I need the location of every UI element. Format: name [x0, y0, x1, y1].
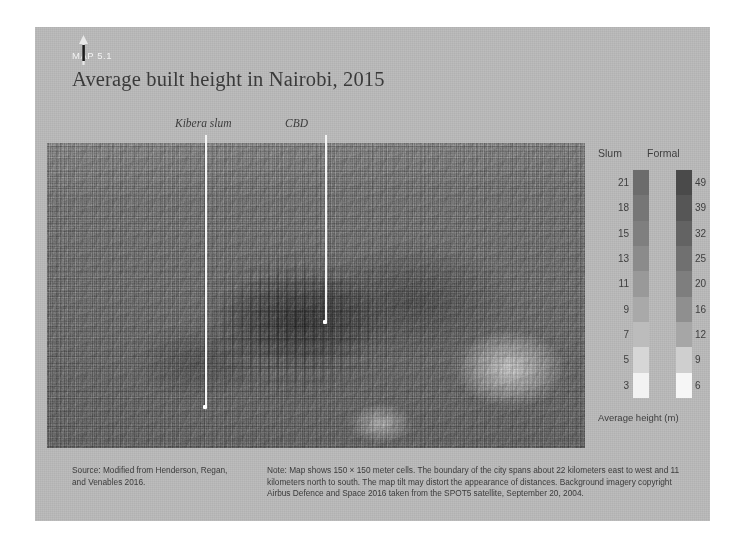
legend-swatch-slum-2: [633, 221, 649, 246]
legend-swatch-formal-7: [676, 347, 692, 372]
map-number-label: MAP 5.1: [72, 50, 632, 62]
legend-tick-slum-7: 5: [601, 347, 629, 372]
leader-line-cbd: [325, 135, 327, 322]
callout-label-kibera-slum: Kibera slum: [175, 117, 232, 129]
legend-tick-slum-1: 18: [601, 195, 629, 220]
legend-tick-formal-6: 12: [695, 322, 723, 347]
legend-axis-caption: Average height (m): [598, 412, 708, 423]
legend-tick-slum-8: 3: [601, 373, 629, 398]
legend-headers: Slum Formal: [598, 147, 708, 163]
leader-dot-cbd: [323, 320, 327, 324]
map-texture-grain: [47, 143, 585, 448]
legend-tick-slum-0: 21: [601, 170, 629, 195]
legend-tick-formal-8: 6: [695, 373, 723, 398]
legend-tick-slum-5: 9: [601, 297, 629, 322]
legend-swatch-formal-1: [676, 195, 692, 220]
north-arrow-icon: [78, 35, 89, 71]
leader-line-kibera: [205, 135, 207, 407]
legend: Slum Formal 21181513119753 4939322520161…: [598, 147, 708, 423]
legend-ticks-slum: 21181513119753: [601, 170, 629, 398]
map-building-extrusions: [187, 235, 413, 412]
legend-header-formal: Formal: [647, 147, 680, 159]
legend-swatch-slum-4: [633, 271, 649, 296]
legend-tick-formal-4: 20: [695, 271, 723, 296]
legend-swatch-slum-3: [633, 246, 649, 271]
legend-swatch-formal-6: [676, 322, 692, 347]
legend-colorbar-formal: [676, 170, 692, 398]
legend-ticks-formal: 4939322520161296: [695, 170, 723, 398]
legend-tick-formal-3: 25: [695, 246, 723, 271]
map-texture-cells: [47, 143, 585, 448]
callout-label-cbd: CBD: [285, 117, 308, 129]
map-texture-diagonal: [47, 143, 585, 448]
footnote-source: Source: Modified from Henderson, Regan, …: [72, 465, 237, 500]
legend-header-slum: Slum: [598, 147, 622, 159]
legend-tick-slum-2: 15: [601, 221, 629, 246]
legend-swatch-slum-6: [633, 322, 649, 347]
figure-card: MAP 5.1 Average built height in Nairobi,…: [35, 27, 710, 521]
legend-body: 21181513119753 4939322520161296: [598, 170, 708, 398]
figure-header: MAP 5.1 Average built height in Nairobi,…: [72, 50, 632, 92]
legend-swatch-formal-3: [676, 246, 692, 271]
legend-swatch-slum-5: [633, 297, 649, 322]
legend-tick-slum-3: 13: [601, 246, 629, 271]
footnotes: Source: Modified from Henderson, Regan, …: [72, 465, 682, 500]
map-texture-fine: [47, 143, 585, 448]
legend-colorbar-slum: [633, 170, 649, 398]
legend-tick-formal-5: 16: [695, 297, 723, 322]
legend-swatch-slum-1: [633, 195, 649, 220]
page-title: Average built height in Nairobi, 2015: [72, 67, 632, 92]
legend-swatch-formal-8: [676, 373, 692, 398]
legend-swatch-slum-0: [633, 170, 649, 195]
legend-swatch-slum-8: [633, 373, 649, 398]
legend-tick-slum-6: 7: [601, 322, 629, 347]
page-root: MAP 5.1 Average built height in Nairobi,…: [0, 0, 742, 549]
legend-tick-formal-1: 39: [695, 195, 723, 220]
map-satellite-image[interactable]: [47, 143, 585, 448]
footnote-note: Note: Map shows 150 × 150 meter cells. T…: [267, 465, 682, 500]
leader-dot-kibera: [203, 405, 207, 409]
legend-swatch-formal-2: [676, 221, 692, 246]
legend-tick-formal-0: 49: [695, 170, 723, 195]
legend-tick-slum-4: 11: [601, 271, 629, 296]
legend-swatch-formal-5: [676, 297, 692, 322]
legend-swatch-slum-7: [633, 347, 649, 372]
legend-tick-formal-7: 9: [695, 347, 723, 372]
legend-tick-formal-2: 32: [695, 221, 723, 246]
legend-swatch-formal-0: [676, 170, 692, 195]
legend-swatch-formal-4: [676, 271, 692, 296]
